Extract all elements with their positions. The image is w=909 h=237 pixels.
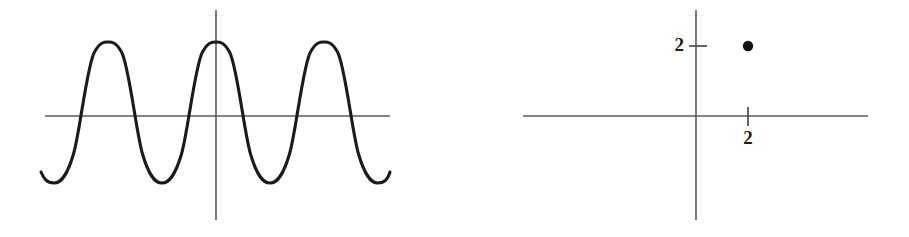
point-plot: 2 2 (455, 0, 909, 237)
cosine-wave-plot (0, 0, 455, 237)
y-axis-tick-label-2: 2 (675, 34, 685, 55)
x-axis-tick-label-2: 2 (743, 127, 753, 148)
cosine-wave-svg (0, 0, 455, 237)
point-plot-svg: 2 2 (455, 0, 909, 237)
figure-container: 2 2 (0, 0, 909, 237)
data-point-2-2 (743, 41, 753, 51)
